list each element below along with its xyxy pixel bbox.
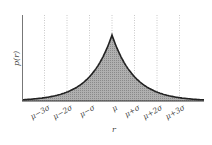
y-axis-label: p(r) xyxy=(12,51,21,66)
tick-label: μ−σ xyxy=(78,102,97,118)
tick-label: μ−3σ xyxy=(29,103,52,122)
tick-label: μ+2σ xyxy=(141,103,164,122)
laplace-chart: p(r) r μ−3σμ−2σμ−σμμ+σμ+2σμ+3σ xyxy=(0,0,212,145)
tick-label: μ−2σ xyxy=(51,103,74,122)
tick-label: μ xyxy=(110,103,119,113)
distribution-area xyxy=(23,35,204,101)
x-axis-label: r xyxy=(112,125,117,134)
tick-label: μ+3σ xyxy=(164,103,187,122)
tick-labels: μ−3σμ−2σμ−σμμ+σμ+2σμ+3σ xyxy=(29,102,187,121)
tick-label: μ+σ xyxy=(123,102,142,118)
